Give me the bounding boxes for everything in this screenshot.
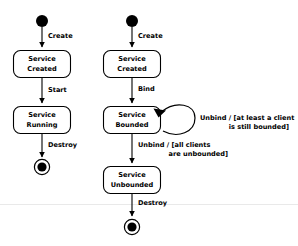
final-state-right	[124, 219, 139, 234]
state-diagram-svg: Create Service Created Start Service Run…	[0, 0, 298, 246]
transition-label-destroy-left: Destroy	[48, 141, 78, 149]
state-label-running-line2: Running	[27, 121, 58, 129]
state-label-created-left-line2: Created	[27, 65, 57, 73]
transition-label-create-right: Create	[138, 32, 163, 40]
final-state-left	[34, 159, 49, 174]
state-label-bounded-line1: Service	[118, 111, 146, 119]
state-label-unbounded-line1: Service	[118, 171, 146, 179]
transition-label-bind: Bind	[138, 85, 155, 93]
transition-label-unbind-all-line2: are unbounded]	[169, 150, 228, 158]
self-transition-label-line2: is still bounded]	[229, 123, 289, 131]
state-label-unbounded-line2: Unbounded	[111, 181, 154, 189]
self-transition-label-line1: Unbind / [at least a client	[200, 114, 294, 122]
transition-label-destroy-right: Destroy	[138, 199, 168, 207]
state-label-created-left-line1: Service	[28, 55, 56, 63]
state-label-running-line1: Service	[28, 111, 56, 119]
initial-state-left	[36, 15, 48, 27]
state-label-created-right-line1: Service	[118, 55, 146, 63]
state-label-created-right-line2: Created	[117, 65, 147, 73]
transition-label-create-left: Create	[48, 32, 73, 40]
transition-label-unbind-all-line1: Unbind / [all clients	[138, 141, 210, 149]
transition-label-start: Start	[48, 86, 67, 94]
state-diagram-canvas: Create Service Created Start Service Run…	[0, 0, 298, 246]
initial-state-right	[126, 15, 138, 27]
state-label-bounded-line2: Bounded	[116, 121, 149, 129]
